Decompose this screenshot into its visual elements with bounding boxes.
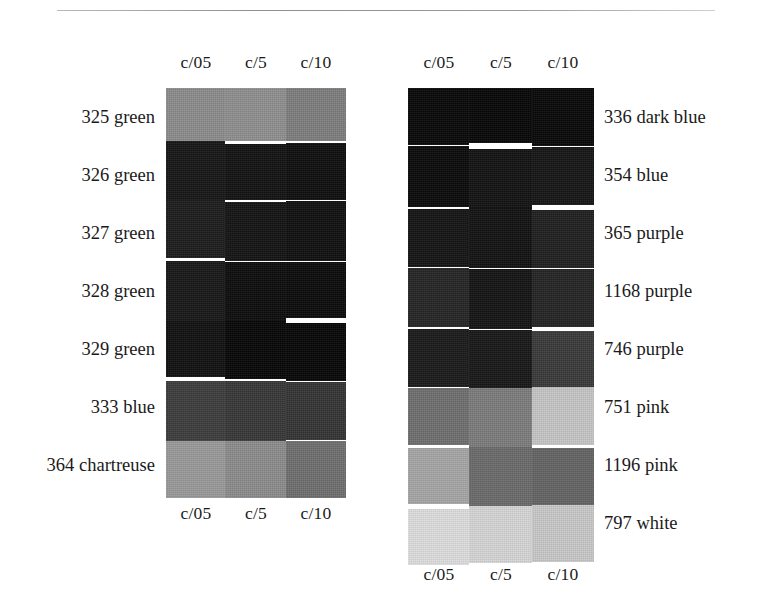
swatch-333-blue-c5 xyxy=(225,381,286,441)
swatch-354-blue-c5 xyxy=(469,149,532,209)
swatch-327-green-c10 xyxy=(286,201,346,261)
swatch-336-dark-blue-c05 xyxy=(408,88,469,145)
column-footer-c05: c/05 xyxy=(408,564,470,585)
swatch-row xyxy=(166,200,346,261)
column-header-c5: c/5 xyxy=(470,52,532,73)
swatch-row xyxy=(408,209,594,268)
swatch-336-dark-blue-c5 xyxy=(469,88,532,143)
swatch-row xyxy=(408,329,594,388)
swatch-325-green-c10 xyxy=(286,88,346,141)
swatch-row xyxy=(408,388,594,447)
right-panel-column-headers: c/05 c/5 c/10 xyxy=(408,52,594,73)
right-swatch-grid xyxy=(408,88,594,565)
swatch-1196-pink-c05 xyxy=(408,448,469,504)
swatch-797-white-c05 xyxy=(408,509,469,565)
column-header-c10: c/10 xyxy=(286,52,346,73)
swatch-row xyxy=(408,268,594,329)
row-label-746-purple: 746 purple xyxy=(594,320,761,378)
row-label-751-pink: 751 pink xyxy=(594,378,761,436)
swatch-326-green-c5 xyxy=(225,144,286,200)
swatch-746-purple-c5 xyxy=(469,330,532,388)
swatch-1168-purple-c5 xyxy=(469,269,532,329)
swatch-365-purple-c10 xyxy=(532,210,594,268)
swatch-333-blue-c10 xyxy=(286,382,346,440)
column-footer-c10: c/10 xyxy=(532,564,594,585)
row-label-336-dark-blue: 336 dark blue xyxy=(594,88,761,146)
swatch-1168-purple-c05 xyxy=(408,268,469,327)
left-panel-row-labels: 325 green 326 green 327 green 328 green … xyxy=(0,88,166,494)
right-panel-row-labels: 336 dark blue 354 blue 365 purple 1168 p… xyxy=(594,88,761,552)
row-label-329-green: 329 green xyxy=(0,320,166,378)
swatch-354-blue-c05 xyxy=(408,146,469,207)
swatch-328-green-c05 xyxy=(166,261,225,321)
row-label-328-green: 328 green xyxy=(0,262,166,320)
swatch-row xyxy=(408,507,594,565)
swatch-746-purple-c10 xyxy=(532,331,594,388)
swatch-1168-purple-c10 xyxy=(532,269,594,327)
swatch-364-chartreuse-c10 xyxy=(286,441,346,498)
swatch-1196-pink-c10 xyxy=(532,448,594,505)
swatch-row xyxy=(166,88,346,141)
swatch-328-green-c5 xyxy=(225,262,286,320)
column-header-c10: c/10 xyxy=(532,52,594,73)
row-label-797-white: 797 white xyxy=(594,494,761,552)
row-label-1168-purple: 1168 purple xyxy=(594,262,761,320)
column-header-c05: c/05 xyxy=(408,52,470,73)
column-footer-c5: c/5 xyxy=(226,503,286,524)
swatch-row xyxy=(166,141,346,200)
swatch-336-dark-blue-c10 xyxy=(532,88,594,146)
swatch-row xyxy=(166,261,346,321)
swatch-797-white-c5 xyxy=(469,506,532,563)
swatch-row xyxy=(166,441,346,498)
swatch-364-chartreuse-c05 xyxy=(166,441,225,498)
swatch-329-green-c05 xyxy=(166,321,225,377)
left-swatch-grid xyxy=(166,88,346,498)
row-label-333-blue: 333 blue xyxy=(0,378,166,436)
swatch-325-green-c5 xyxy=(225,88,286,141)
swatch-354-blue-c10 xyxy=(532,147,594,205)
swatch-row xyxy=(408,447,594,507)
left-panel-column-headers: c/05 c/5 c/10 xyxy=(166,52,346,73)
swatch-327-green-c05 xyxy=(166,200,225,258)
swatch-797-white-c10 xyxy=(532,505,594,562)
swatch-329-green-c5 xyxy=(225,320,286,379)
swatch-328-green-c10 xyxy=(286,262,346,318)
swatch-row xyxy=(408,88,594,146)
swatch-1196-pink-c5 xyxy=(469,447,532,507)
swatch-row xyxy=(166,381,346,441)
row-label-354-blue: 354 blue xyxy=(594,146,761,204)
row-label-365-purple: 365 purple xyxy=(594,204,761,262)
swatch-row xyxy=(166,321,346,381)
swatch-365-purple-c5 xyxy=(469,208,532,268)
swatch-365-purple-c05 xyxy=(408,209,469,267)
column-footer-c10: c/10 xyxy=(286,503,346,524)
swatch-364-chartreuse-c5 xyxy=(225,441,286,498)
swatch-325-green-c05 xyxy=(166,88,225,141)
swatch-746-purple-c05 xyxy=(408,329,469,387)
right-panel-column-footers: c/05 c/5 c/10 xyxy=(408,564,594,585)
row-label-364-chartreuse: 364 chartreuse xyxy=(0,436,166,494)
swatch-326-green-c05 xyxy=(166,141,225,200)
swatch-326-green-c10 xyxy=(286,143,346,200)
column-footer-c5: c/5 xyxy=(470,564,532,585)
row-label-325-green: 325 green xyxy=(0,88,166,146)
swatch-751-pink-c05 xyxy=(408,388,469,445)
column-footer-c05: c/05 xyxy=(166,503,226,524)
column-header-c05: c/05 xyxy=(166,52,226,73)
swatch-row xyxy=(408,146,594,209)
left-panel-column-footers: c/05 c/5 c/10 xyxy=(166,503,346,524)
row-label-326-green: 326 green xyxy=(0,146,166,204)
swatch-751-pink-c5 xyxy=(469,388,532,447)
swatch-333-blue-c05 xyxy=(166,381,225,441)
top-horizontal-rule xyxy=(57,10,715,11)
row-label-1196-pink: 1196 pink xyxy=(594,436,761,494)
swatch-327-green-c5 xyxy=(225,202,286,261)
swatch-329-green-c10 xyxy=(286,323,346,381)
column-header-c5: c/5 xyxy=(226,52,286,73)
swatch-751-pink-c10 xyxy=(532,387,594,445)
row-label-327-green: 327 green xyxy=(0,204,166,262)
